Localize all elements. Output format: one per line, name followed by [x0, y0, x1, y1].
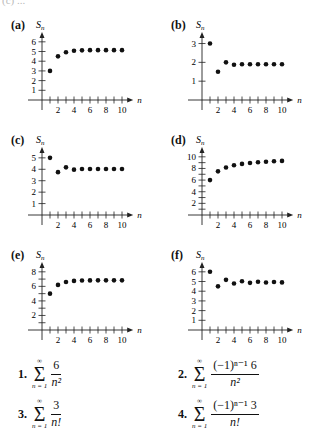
item-number: 2. [178, 367, 187, 382]
data-point [96, 167, 101, 172]
denominator: n² [51, 375, 61, 389]
data-point [208, 270, 213, 275]
data-point [224, 60, 229, 65]
x-tick-label: 8 [264, 335, 269, 345]
series-list: 1. ∞ Σ n = 1 6 n² 2. ∞ Σ n = 1 (−1)ⁿ⁻¹ 6… [0, 352, 318, 444]
fraction: 6 n² [51, 359, 61, 388]
sigma-icon: Σ [194, 405, 206, 423]
series-item-4: 4. ∞ Σ n = 1 (−1)ⁿ⁻¹ 3 n! [178, 398, 259, 430]
x-tick-label: 2 [216, 335, 221, 345]
y-axis-arrow-icon [200, 262, 205, 268]
item-number: 1. [18, 367, 27, 382]
x-axis-label: n [297, 95, 302, 105]
data-point [48, 291, 53, 296]
x-tick-label: 2 [56, 335, 61, 345]
data-point [280, 159, 285, 164]
data-point [256, 62, 261, 67]
x-tick-label: 4 [72, 335, 77, 345]
data-point [72, 48, 77, 53]
denominator: n² [230, 375, 240, 389]
cropped-top-fragment: (c) ... [2, 0, 25, 6]
graph-panel-f: (f) Snn246810123456 [160, 244, 318, 359]
x-tick-label: 6 [248, 335, 253, 345]
summation-symbol: ∞ Σ n = 1 [192, 358, 207, 390]
y-axis-label: Sn [36, 249, 45, 262]
data-point [112, 278, 117, 283]
y-tick-label: 2 [32, 187, 37, 197]
data-point [248, 161, 253, 166]
data-point [64, 280, 69, 285]
y-tick-label: 3 [32, 176, 37, 186]
x-axis-arrow-icon [127, 98, 133, 103]
data-point [120, 167, 125, 172]
graph-a: Snn246810123456 [0, 14, 159, 124]
x-tick-label: 2 [56, 220, 61, 230]
x-tick-label: 6 [248, 105, 253, 115]
x-axis-label: n [297, 210, 302, 220]
y-tick-label: 5 [192, 277, 197, 287]
y-axis-label: Sn [36, 19, 45, 32]
data-point [112, 167, 117, 172]
data-point [280, 62, 285, 67]
fraction: 3 n! [51, 399, 61, 428]
data-point [80, 48, 85, 53]
y-axis-label: Sn [36, 134, 45, 147]
data-point [264, 62, 269, 67]
data-point [88, 167, 93, 172]
lower-limit: n = 1 [32, 383, 47, 390]
y-tick-label: 1 [32, 199, 37, 209]
item-number: 4. [178, 407, 187, 422]
data-point [120, 278, 125, 283]
x-tick-label: 6 [88, 335, 93, 345]
data-point [56, 54, 61, 59]
y-tick-label: 2 [32, 310, 37, 320]
x-tick-label: 4 [232, 220, 237, 230]
data-point [64, 165, 69, 170]
x-tick-label: 8 [104, 220, 109, 230]
y-tick-label: 3 [192, 39, 197, 49]
data-point [64, 50, 69, 55]
data-point [224, 278, 229, 283]
x-axis-label: n [137, 95, 142, 105]
denominator: n! [230, 415, 240, 429]
data-point [104, 278, 109, 283]
data-point [96, 278, 101, 283]
x-axis-arrow-icon [287, 328, 293, 333]
lower-limit: n = 1 [32, 423, 47, 430]
y-axis-label: Sn [196, 134, 205, 147]
y-axis-arrow-icon [200, 32, 205, 38]
x-tick-label: 10 [278, 220, 288, 230]
data-point [112, 48, 117, 53]
numerator: (−1)ⁿ⁻¹ 3 [211, 399, 258, 414]
y-tick-label: 4 [192, 187, 197, 197]
y-tick-label: 5 [32, 153, 37, 163]
numerator: (−1)ⁿ⁻¹ 6 [211, 359, 258, 374]
y-axis-label: Sn [196, 19, 205, 32]
y-tick-label: 10 [187, 152, 197, 162]
y-tick-label: 6 [192, 267, 197, 277]
data-point [120, 48, 125, 53]
x-tick-label: 2 [216, 105, 221, 115]
data-point [224, 165, 229, 170]
data-point [232, 62, 237, 67]
x-tick-label: 4 [72, 105, 77, 115]
y-tick-label: 4 [32, 296, 37, 306]
y-tick-label: 2 [192, 57, 197, 67]
data-point [96, 48, 101, 53]
graph-panel-c: (c) Snn24681012345 [0, 129, 159, 244]
x-tick-label: 8 [104, 335, 109, 345]
x-tick-label: 10 [278, 335, 288, 345]
x-tick-label: 2 [216, 220, 221, 230]
summation-symbol: ∞ Σ n = 1 [32, 358, 47, 390]
fraction: (−1)ⁿ⁻¹ 6 n² [211, 359, 258, 388]
data-point [48, 69, 53, 74]
data-point [56, 283, 61, 288]
x-tick-label: 2 [56, 105, 61, 115]
x-axis-arrow-icon [127, 213, 133, 218]
x-axis-label: n [137, 210, 142, 220]
sigma-icon: Σ [34, 365, 46, 383]
x-tick-label: 10 [118, 220, 128, 230]
y-tick-label: 4 [32, 56, 37, 66]
x-tick-label: 10 [278, 105, 288, 115]
graph-panel-a: (a) Snn246810123456 [0, 14, 159, 129]
